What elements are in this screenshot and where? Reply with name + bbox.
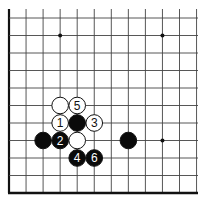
go-board: 513246 [0,0,207,200]
board-grid [8,9,198,193]
move-number-label: 1 [57,116,64,130]
black-stone: 6 [86,150,103,167]
star-point [160,34,164,38]
white-stone: 5 [69,97,86,114]
white-stone: 1 [52,115,69,132]
star-point [58,34,62,38]
white-stone: 3 [86,115,103,132]
black-stone [35,132,52,149]
stones-layer: 513246 [35,97,137,166]
move-number-label: 5 [74,99,81,113]
move-number-label: 2 [57,134,64,148]
black-stone: 2 [52,132,69,149]
black-stone: 4 [69,150,86,167]
move-number-label: 4 [74,151,81,165]
white-stone [52,97,69,114]
black-stone [120,132,137,149]
black-stone [69,115,86,132]
move-number-label: 6 [91,151,98,165]
move-number-label: 3 [91,116,98,130]
star-point [160,139,164,143]
white-stone [69,132,86,149]
